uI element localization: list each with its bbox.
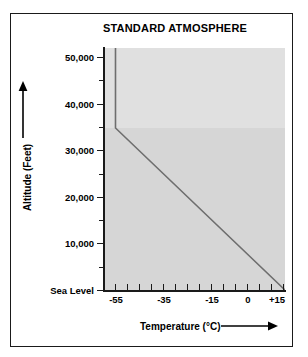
x-tick-minus10 xyxy=(223,284,224,290)
x-tick-minus30 xyxy=(175,284,176,290)
x-tick-minus20 xyxy=(199,284,200,290)
y-tick-30000 xyxy=(97,150,104,151)
y-tick-label-30000: 30,000 xyxy=(38,145,94,156)
x-tick-minus55 xyxy=(115,284,116,290)
y-tick-label-40000: 40,000 xyxy=(38,99,94,110)
x-axis-line xyxy=(103,290,286,292)
chart-title: STANDARD ATMOSPHERE xyxy=(60,22,290,34)
x-tick-minus45 xyxy=(139,284,140,290)
y-tick-5000 xyxy=(99,267,104,268)
x-tick-minus50 xyxy=(127,284,128,290)
x-tick-minus5 xyxy=(235,284,236,290)
y-tick-50000 xyxy=(97,57,104,58)
plot-area xyxy=(104,48,285,290)
y-tick-label-group: 50,000 40,000 30,000 20,000 10,000 Sea L… xyxy=(36,0,94,357)
x-tick-plus15 xyxy=(283,284,284,290)
temperature-profile-line xyxy=(104,48,285,290)
y-axis-line xyxy=(103,47,105,291)
y-tick-35000 xyxy=(99,127,104,128)
y-axis-title: Altitude (Feet) xyxy=(22,103,33,253)
y-tick-45000 xyxy=(99,80,104,81)
y-tick-25000 xyxy=(99,174,104,175)
x-axis-title-group: Temperature (°C) xyxy=(140,316,279,336)
x-axis-title: Temperature (°C) xyxy=(140,321,221,332)
y-tick-sea-level xyxy=(97,290,104,291)
y-axis-title-group: Altitude (Feet) xyxy=(14,80,38,280)
y-tick-label-10000: 10,000 xyxy=(38,238,94,249)
x-tick-zero xyxy=(247,284,248,290)
y-tick-label-50000: 50,000 xyxy=(38,52,94,63)
y-tick-20000 xyxy=(97,197,104,198)
x-tick-label-minus15: -15 xyxy=(192,294,232,305)
y-tick-40000 xyxy=(97,104,104,105)
x-tick-minus25 xyxy=(187,284,188,290)
y-tick-10000 xyxy=(97,243,104,244)
y-tick-label-20000: 20,000 xyxy=(38,192,94,203)
arrow-right-icon xyxy=(221,319,279,333)
x-tick-plus5 xyxy=(259,284,260,290)
standard-atmosphere-figure: STANDARD ATMOSPHERE 50,000 40,000 30,000… xyxy=(0,0,308,357)
x-tick-minus15 xyxy=(211,284,212,290)
y-tick-label-sea-level: Sea Level xyxy=(38,285,94,296)
y-tick-15000 xyxy=(99,220,104,221)
x-tick-label-minus55: -55 xyxy=(96,294,136,305)
x-tick-label-minus35: -35 xyxy=(144,294,184,305)
x-tick-plus10 xyxy=(271,284,272,290)
x-tick-minus40 xyxy=(151,284,152,290)
x-tick-label-plus15: +15 xyxy=(257,294,297,305)
x-tick-minus35 xyxy=(163,284,164,290)
